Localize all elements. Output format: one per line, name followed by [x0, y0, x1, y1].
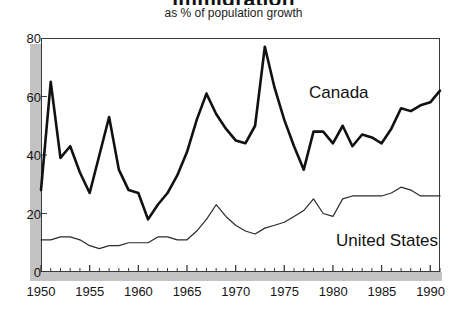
chart-figure: immigration as % of population growth 80…: [0, 0, 467, 320]
series-label-canada: Canada: [309, 83, 369, 103]
series-line-canada: [41, 47, 440, 220]
plot-lines: [0, 0, 467, 320]
series-label-united-states: United States: [336, 231, 438, 251]
